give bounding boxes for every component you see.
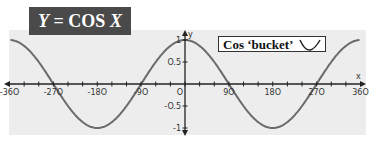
legend-box: Cos ‘bucket’ (218, 36, 326, 52)
chart-title: Y = COS X (29, 7, 131, 35)
svg-text:-27O: -27O (44, 88, 63, 97)
svg-text:y: y (188, 30, 193, 39)
svg-text:x: x (356, 72, 361, 81)
bucket-curve-icon (299, 39, 321, 51)
legend-label: Cos ‘bucket’ (223, 37, 293, 52)
svg-text:-O.5: -O.5 (164, 102, 181, 111)
svg-text:1: 1 (176, 36, 181, 45)
svg-text:-9O: -9O (134, 88, 148, 97)
svg-text:-36O: -36O (0, 88, 19, 97)
svg-text:36O: 36O (352, 88, 368, 97)
svg-text:O.5: O.5 (167, 58, 181, 67)
svg-text:O: O (177, 88, 183, 97)
svg-text:-1: -1 (173, 124, 181, 133)
svg-text:-18O: -18O (88, 88, 107, 97)
svg-text:9O: 9O (223, 88, 234, 97)
svg-text:18O: 18O (265, 88, 281, 97)
svg-text:27O: 27O (308, 88, 324, 97)
